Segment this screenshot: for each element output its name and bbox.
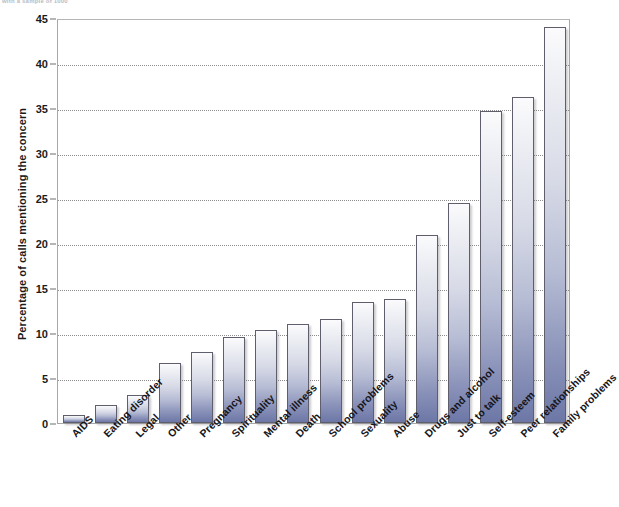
x-tick-label-other: Other xyxy=(165,411,194,440)
x-tick-label-death: Death xyxy=(293,410,322,439)
x-tick-label-legal: Legal xyxy=(133,411,161,439)
x-tick-label-mental-illness: Mental illness xyxy=(261,381,319,439)
x-tick-label-abuse: Abuse xyxy=(390,408,422,440)
x-tick-label-aids: AIDS xyxy=(69,413,96,440)
